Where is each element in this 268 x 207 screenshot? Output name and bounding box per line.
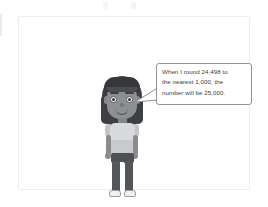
top-artifact-left bbox=[103, 2, 108, 9]
eyebrow-right bbox=[125, 92, 134, 94]
speech-bubble-text: When I round 24,498 to the nearest 1,000… bbox=[162, 67, 248, 98]
arm-right bbox=[133, 135, 138, 155]
leg-left bbox=[112, 161, 120, 192]
speech-bubble: When I round 24,498 to the nearest 1,000… bbox=[156, 63, 252, 105]
arm-left bbox=[106, 135, 111, 155]
left-edge-artifact bbox=[0, 14, 2, 36]
eyebrow-left bbox=[110, 92, 119, 94]
slide-frame: When I round 24,498 to the nearest 1,000… bbox=[18, 16, 250, 190]
pupil-left bbox=[112, 98, 115, 101]
leg-gap bbox=[120, 162, 124, 192]
top-artifact-right bbox=[131, 2, 136, 9]
image-canvas: When I round 24,498 to the nearest 1,000… bbox=[0, 0, 268, 207]
pupil-right bbox=[128, 98, 131, 101]
leg-right bbox=[125, 161, 133, 192]
shoe-right bbox=[124, 190, 136, 197]
shoe-left bbox=[109, 190, 121, 197]
nose bbox=[120, 103, 124, 107]
